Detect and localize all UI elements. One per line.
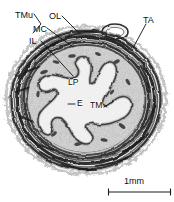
histology-figure: TMu OL MC IL TA LP E TM 1mm <box>0 0 174 202</box>
scale-bar <box>0 0 174 202</box>
